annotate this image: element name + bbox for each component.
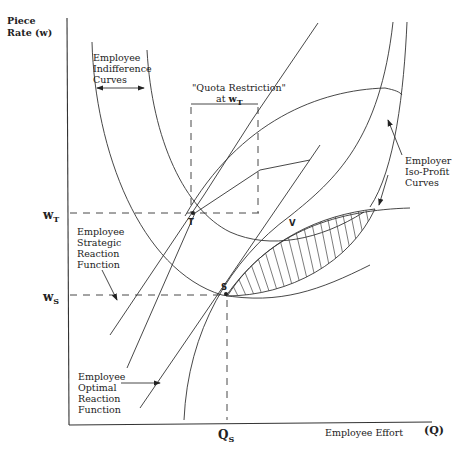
y-axis-label-line2: Rate (w) [7,27,52,38]
wT-label: wT [43,208,59,224]
x-axis-label: Employee Effort [325,427,403,438]
x-axis [69,422,432,425]
x-axis-symbol: (Q) [424,425,444,436]
wS-label: wS [43,290,59,306]
point-T-dot [191,211,195,215]
point-S-dot [224,292,228,296]
point-V-label: V [289,218,296,228]
point-T-label: T [188,217,194,227]
indifference-curves [92,42,370,298]
QS-label: QS [218,428,234,444]
diagram-canvas [0,0,457,455]
y-axis [67,18,69,425]
point-S-label: S [221,282,227,292]
strategic-reaction-line-2 [127,160,310,368]
y-axis-label-line1: Piece [7,15,36,26]
reaction-functions [110,23,320,408]
strategic-arrow [102,270,117,300]
annotation-arrows [97,88,402,383]
indifference-curve-outer [92,42,370,298]
isoprofit-curve-right [370,22,407,207]
isoprofit-top-flat [228,208,410,295]
isoprofit-arrow-up [388,120,402,155]
indifference-curve-inner [147,50,364,241]
